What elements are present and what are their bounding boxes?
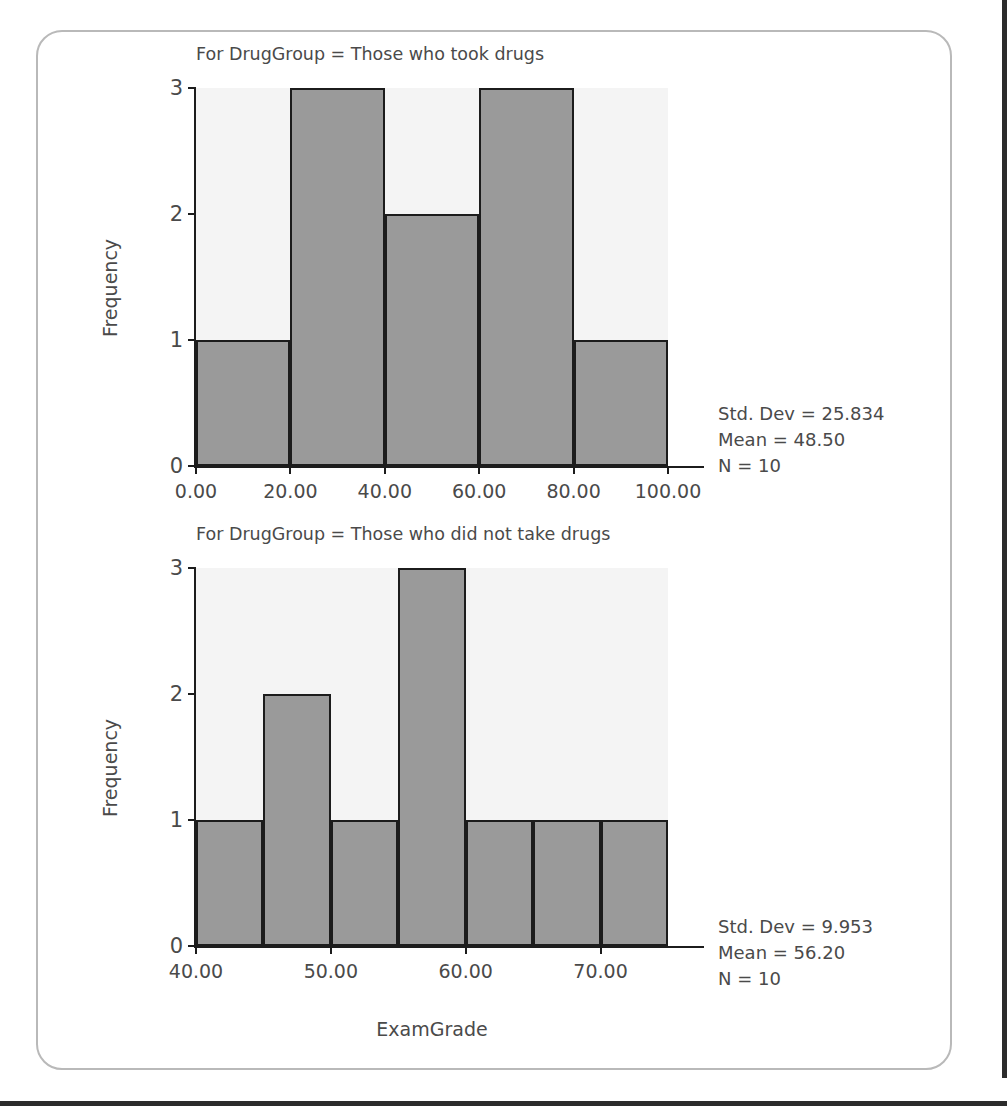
x-tick [573,466,575,474]
histogram-bar [479,88,573,466]
y-tick-label: 0 [170,456,183,477]
plot-area: 0123 40.0050.0060.0070.00 [196,568,668,946]
histogram-bar [398,568,465,946]
histogram-bar [196,820,263,946]
stat-std-dev: Std. Dev = 9.953 [718,914,873,940]
stats-annotation: Std. Dev = 25.834 Mean = 48.50 N = 10 [718,401,884,479]
x-tick-label: 80.00 [546,480,600,502]
page-edge-rule-bottom [0,1101,1007,1106]
x-tick [330,946,332,954]
x-tick [195,946,197,954]
x-axis-line [194,466,704,468]
histogram-bar [196,340,290,466]
chart-title: For DrugGroup = Those who took drugs [196,44,544,64]
y-tick-label: 2 [170,684,183,705]
x-tick [465,946,467,954]
x-tick [600,946,602,954]
x-tick-label: 20.00 [263,480,317,502]
y-tick [188,87,196,89]
chart-title: For DrugGroup = Those who did not take d… [196,524,610,544]
y-tick-label: 3 [170,558,183,579]
histogram-bar [331,820,398,946]
y-tick-label: 0 [170,936,183,957]
y-tick [188,213,196,215]
figure-page: For DrugGroup = Those who took drugs 012… [0,0,1007,1106]
x-axis-title: ExamGrade [376,1018,487,1040]
y-tick-label: 3 [170,78,183,99]
histogram-bar [263,694,330,946]
stat-n: N = 10 [718,966,873,992]
x-tick-label: 60.00 [439,960,493,982]
stat-std-dev: Std. Dev = 25.834 [718,401,884,427]
histogram-no-drugs: For DrugGroup = Those who did not take d… [0,524,1007,1084]
y-tick [188,567,196,569]
x-tick-label: 40.00 [358,480,412,502]
y-tick [188,339,196,341]
histogram-bar [290,88,384,466]
y-tick-label: 2 [170,204,183,225]
x-tick [289,466,291,474]
stats-annotation: Std. Dev = 9.953 Mean = 56.20 N = 10 [718,914,873,992]
x-tick [384,466,386,474]
histogram-bar [574,340,668,466]
plot-area: 0123 0.0020.0040.0060.0080.00100.00 [196,88,668,466]
y-tick-label: 1 [170,330,183,351]
x-axis-line [194,946,704,948]
y-axis-title: Frequency [99,158,121,418]
x-tick-label: 40.00 [169,960,223,982]
x-tick-label: 70.00 [573,960,627,982]
histogram-took-drugs: For DrugGroup = Those who took drugs 012… [0,44,1007,514]
x-tick [195,466,197,474]
stat-mean: Mean = 48.50 [718,427,884,453]
histogram-bar [533,820,600,946]
histogram-bar [601,820,668,946]
y-tick [188,819,196,821]
histogram-bar [385,214,479,466]
x-tick [667,466,669,474]
x-tick-label: 50.00 [304,960,358,982]
stat-n: N = 10 [718,453,884,479]
histogram-bar [466,820,533,946]
stat-mean: Mean = 56.20 [718,940,873,966]
y-tick [188,693,196,695]
y-tick-label: 1 [170,810,183,831]
x-tick-label: 60.00 [452,480,506,502]
y-axis-title: Frequency [99,638,121,898]
x-tick [478,466,480,474]
x-tick-label: 100.00 [635,480,701,502]
x-tick-label: 0.00 [175,480,217,502]
